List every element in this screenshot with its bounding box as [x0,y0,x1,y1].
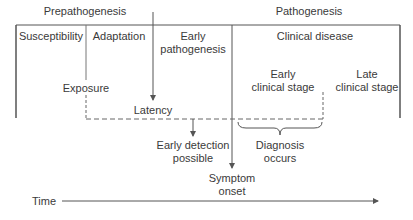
event-exposure: Exposure [63,82,109,95]
event-latency: Latency [134,104,173,117]
event-diagnosis: Diagnosis occurs [256,139,304,165]
diagnosis-brace [238,122,322,135]
stage-late-clinical: Late clinical stage [336,68,399,94]
time-axis-label: Time [32,195,56,208]
event-early-detection: Early detection possible [157,139,230,165]
stage-clinical-disease: Clinical disease [277,30,353,43]
stage-early-pathogenesis: Early pathogenesis [160,30,225,56]
stage-adaptation: Adaptation [93,30,146,43]
stage-early-clinical: Early clinical stage [252,68,315,94]
phase-pathogenesis: Pathogenesis [276,5,343,18]
event-symptom-onset: Symptom onset [209,172,255,198]
stage-susceptibility: Susceptibility [19,30,83,43]
phase-prepathogenesis: Prepathogenesis [44,5,127,18]
